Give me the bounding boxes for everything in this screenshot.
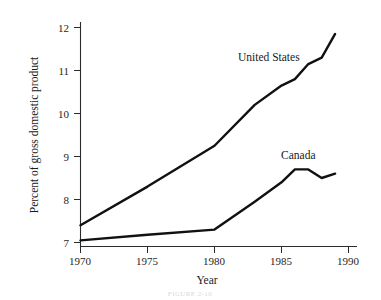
- x-axis-tick-labels: 1970 1975 1980 1985 1990: [69, 255, 360, 267]
- series-label-united-states: United States: [238, 51, 300, 63]
- line-chart: 12 11 10 9 8 7 1970 1975 1980 1985 1990: [0, 0, 381, 300]
- x-axis-title: Year: [196, 274, 217, 286]
- x-tick-label-1975: 1975: [136, 255, 159, 267]
- series-line-canada: [81, 169, 336, 240]
- y-axis-ticks: [74, 28, 80, 243]
- y-tick-label-10: 10: [58, 108, 70, 120]
- y-tick-label-7: 7: [64, 237, 70, 249]
- y-tick-label-11: 11: [58, 65, 69, 77]
- series-label-canada: Canada: [281, 149, 315, 161]
- y-tick-label-8: 8: [64, 194, 70, 206]
- y-axis-title: Percent of gross domestic product: [28, 56, 41, 213]
- x-tick-label-1990: 1990: [337, 255, 360, 267]
- y-tick-label-12: 12: [58, 22, 69, 34]
- y-axis-tick-labels: 12 11 10 9 8 7: [58, 22, 70, 249]
- y-tick-label-9: 9: [64, 151, 70, 163]
- figure-container: 12 11 10 9 8 7 1970 1975 1980 1985 1990: [0, 0, 381, 300]
- series-lines: [81, 34, 336, 240]
- figure-caption: FIGURE 2-10: [168, 290, 212, 298]
- x-tick-label-1980: 1980: [203, 255, 226, 267]
- x-axis-ticks: [81, 247, 349, 253]
- chart-axes: [80, 22, 357, 247]
- x-tick-label-1970: 1970: [69, 255, 92, 267]
- x-tick-label-1985: 1985: [270, 255, 293, 267]
